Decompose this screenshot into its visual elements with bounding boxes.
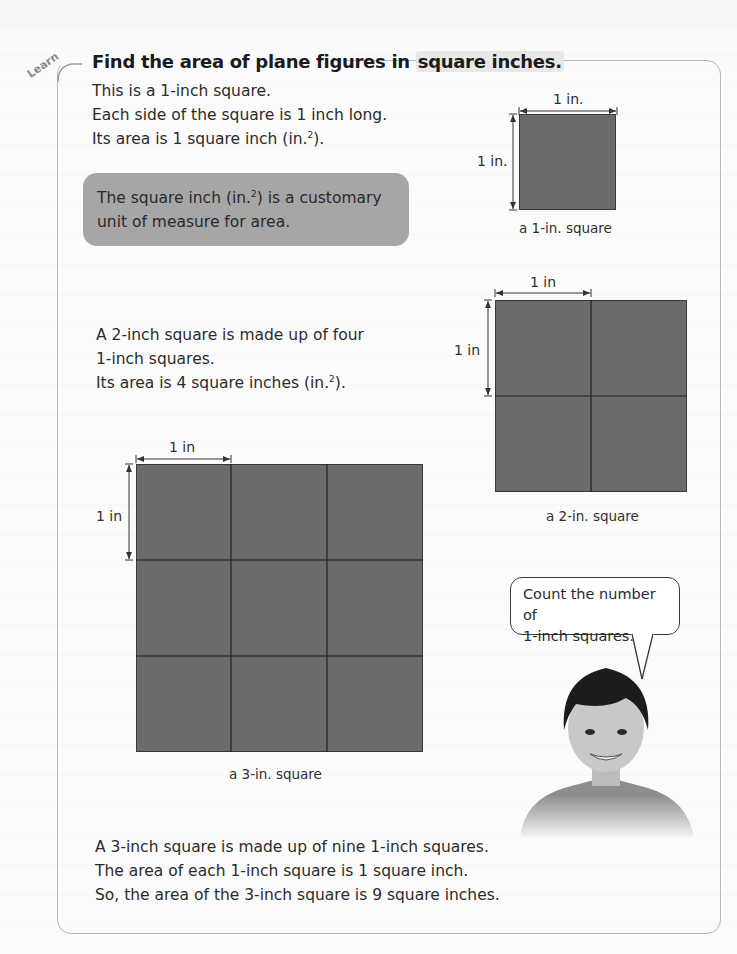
bubble-line-1: Count the number of bbox=[523, 584, 667, 626]
width-arrow-icon bbox=[135, 454, 232, 464]
learn-badge-icon: Learn bbox=[22, 44, 102, 84]
two-inch-grid bbox=[495, 300, 687, 492]
height-label: 1 in. bbox=[477, 153, 508, 169]
intro-line-1: This is a 1-inch square. bbox=[92, 79, 271, 103]
height-arrow-icon bbox=[483, 299, 493, 397]
page-title: Find the area of plane figures in square… bbox=[92, 51, 564, 72]
conclusion-line-1: A 3-inch square is made up of nine 1-inc… bbox=[95, 835, 489, 859]
width-label: 1 in bbox=[169, 439, 195, 455]
three-inch-grid bbox=[136, 464, 423, 752]
height-arrow-icon bbox=[508, 113, 518, 211]
height-label: 1 in bbox=[454, 342, 480, 358]
student-photo bbox=[514, 660, 698, 840]
title-text: Find the area of plane figures in bbox=[92, 51, 416, 72]
conclusion-line-2: The area of each 1-inch square is 1 squa… bbox=[95, 859, 468, 883]
speech-bubble: Count the number of 1-inch squares. bbox=[510, 577, 680, 635]
width-arrow-icon bbox=[494, 288, 592, 298]
title-highlight: square inches. bbox=[416, 51, 564, 72]
width-label: 1 in. bbox=[553, 91, 584, 107]
two-inch-line-3: Its area is 4 square inches (in.2). bbox=[96, 371, 346, 395]
figure-caption: a 1-in. square bbox=[519, 220, 612, 236]
height-arrow-icon bbox=[124, 463, 134, 561]
figure-caption: a 3-in. square bbox=[229, 766, 322, 782]
definition-callout: The square inch (in.2) is a customary un… bbox=[83, 173, 409, 246]
intro-line-3: Its area is 1 square inch (in.2). bbox=[92, 127, 324, 151]
intro-line-2: Each side of the square is 1 inch long. bbox=[92, 103, 387, 127]
height-label: 1 in bbox=[96, 508, 122, 524]
one-inch-square bbox=[519, 114, 616, 210]
two-inch-line-2: 1-inch squares. bbox=[96, 347, 215, 371]
conclusion-line-3: So, the area of the 3-inch square is 9 s… bbox=[95, 883, 500, 907]
two-inch-line-1: A 2-inch square is made up of four bbox=[96, 323, 364, 347]
callout-line-1: The square inch (in.2) is a customary bbox=[97, 186, 395, 210]
callout-line-2: unit of measure for area. bbox=[97, 210, 395, 234]
learn-badge-text: Learn bbox=[25, 50, 61, 81]
figure-caption: a 2-in. square bbox=[546, 508, 639, 524]
